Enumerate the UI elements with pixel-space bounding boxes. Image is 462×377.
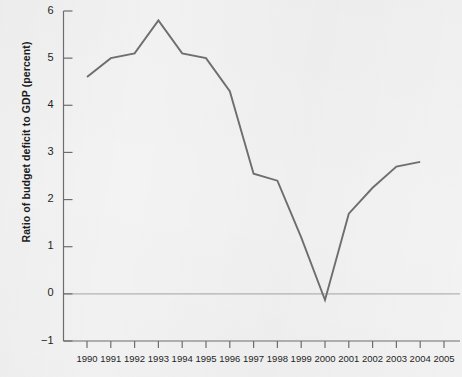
y-axis-tick-label: 6 xyxy=(28,4,54,16)
y-axis-tick-label: 1 xyxy=(28,239,54,251)
y-axis-tick-label: 2 xyxy=(28,192,54,204)
data-series-line xyxy=(87,20,420,300)
y-axis-tick-label: 4 xyxy=(28,98,54,110)
x-axis-tick-label: 2005 xyxy=(427,353,461,364)
y-axis-tick-label: −1 xyxy=(28,334,54,346)
line-chart-plot xyxy=(0,0,462,377)
y-axis-tick-label: 0 xyxy=(28,286,54,298)
y-axis-tick-label: 5 xyxy=(28,51,54,63)
y-axis-tick-label: 3 xyxy=(28,145,54,157)
chart-container: Ratio of budget deficit to GDP (percent)… xyxy=(0,0,462,377)
